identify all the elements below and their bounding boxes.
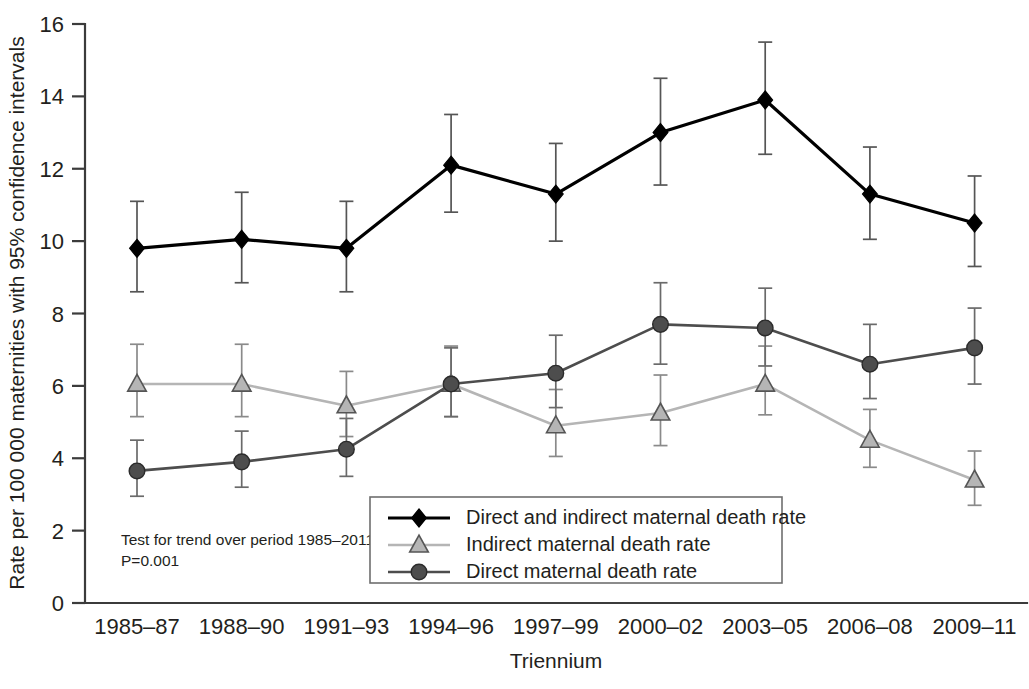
y-axis-ticks: 0246810121416 — [40, 12, 85, 616]
trend-annotation: Test for trend over period 1985–2011: P=… — [121, 531, 378, 569]
y-tick-label: 16 — [40, 12, 64, 37]
x-tick-label: 2003–05 — [722, 614, 808, 639]
maternal-death-rate-line-chart: 0246810121416 1985–871988–901991–931994–… — [0, 0, 1029, 689]
triangle-marker — [128, 374, 147, 391]
series-diamond — [130, 42, 982, 292]
y-tick-label: 12 — [40, 157, 64, 182]
diamond-marker — [444, 156, 459, 174]
circle-marker — [339, 441, 355, 457]
diamond-marker — [967, 214, 982, 232]
series-circle — [129, 283, 982, 497]
circle-marker — [129, 463, 145, 479]
diamond-marker — [339, 239, 354, 257]
circle-marker — [967, 340, 983, 356]
chart-figure: 0246810121416 1985–871988–901991–931994–… — [0, 0, 1029, 689]
legend-label: Direct maternal death rate — [466, 560, 697, 582]
y-axis-title: Rate per 100 000 maternities with 95% co… — [5, 36, 28, 589]
y-tick-label: 14 — [40, 84, 64, 109]
x-tick-label: 1991–93 — [304, 614, 390, 639]
x-tick-label: 2000–02 — [618, 614, 704, 639]
x-tick-label: 1985–87 — [94, 614, 180, 639]
x-axis-title: Triennium — [510, 649, 603, 672]
circle-marker — [234, 454, 250, 470]
y-tick-label: 2 — [52, 519, 64, 544]
diamond-marker — [234, 230, 249, 248]
triangle-marker — [232, 374, 251, 391]
trend-annotation-line1: Test for trend over period 1985–2011: — [121, 531, 378, 548]
chart-legend: Direct and indirect maternal death rateI… — [370, 497, 806, 583]
circle-marker — [757, 320, 773, 336]
y-tick-label: 4 — [52, 446, 64, 471]
y-tick-label: 10 — [40, 229, 64, 254]
x-tick-label: 1988–90 — [199, 614, 285, 639]
y-tick-label: 6 — [52, 374, 64, 399]
x-tick-label: 2009–11 — [933, 614, 1017, 639]
triangle-marker — [756, 374, 775, 391]
diamond-marker — [653, 124, 668, 142]
diamond-marker — [548, 185, 563, 203]
x-tick-label: 2006–08 — [827, 614, 913, 639]
circle-marker — [548, 365, 564, 381]
x-axis-ticks: 1985–871988–901991–931994–961997–992000–… — [94, 614, 1016, 639]
circle-marker — [653, 317, 669, 333]
y-tick-label: 8 — [52, 302, 64, 327]
y-tick-label: 0 — [52, 591, 64, 616]
diamond-marker — [130, 239, 145, 257]
data-series-layer — [128, 42, 984, 505]
circle-marker — [862, 356, 878, 372]
trend-annotation-line2: P=0.001 — [121, 552, 179, 569]
x-tick-label: 1997–99 — [513, 614, 599, 639]
x-tick-label: 1994–96 — [408, 614, 494, 639]
legend-label: Direct and indirect maternal death rate — [466, 506, 806, 528]
legend-label: Indirect maternal death rate — [466, 533, 711, 555]
triangle-marker — [861, 430, 880, 447]
circle-marker — [443, 376, 459, 392]
circle-marker — [411, 564, 427, 580]
